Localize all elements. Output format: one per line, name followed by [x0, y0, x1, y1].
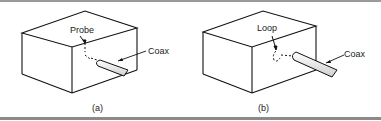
waveguide-box-a — [22, 11, 137, 93]
caption-b: (b) — [258, 103, 269, 113]
coax-label-a: Coax — [148, 46, 169, 56]
coax-cable-b — [281, 52, 344, 77]
coax-label-b: Coax — [344, 49, 365, 59]
probe-label: Probe — [70, 25, 94, 35]
loop-label: Loop — [257, 23, 277, 33]
loop-b — [272, 36, 280, 61]
bottom-rule — [0, 117, 381, 120]
coupling-diagram — [0, 0, 381, 121]
probe-a — [80, 36, 90, 59]
coax-cable-a — [91, 51, 146, 76]
caption-a: (a) — [92, 103, 103, 113]
